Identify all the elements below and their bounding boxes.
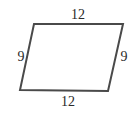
left-side-label: 9	[18, 49, 25, 64]
top-side-label: 12	[71, 7, 85, 22]
right-side-label: 9	[121, 49, 128, 64]
bottom-side-label: 12	[61, 94, 75, 109]
parallelogram-shape	[20, 24, 123, 91]
parallelogram-diagram: 12 12 9 9	[0, 0, 134, 115]
